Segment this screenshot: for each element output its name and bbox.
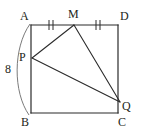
vertex-label-m: M — [68, 8, 79, 20]
side-length-label: 8 — [5, 63, 11, 75]
square-abcd — [31, 25, 118, 113]
arc-brace-side-AB — [17, 24, 30, 115]
vertex-label-p: P — [19, 51, 26, 63]
vertex-label-b: B — [21, 116, 29, 128]
vertex-label-d: D — [120, 10, 129, 22]
vertex-label-a: A — [20, 10, 29, 22]
geometry-figure: A M D P B C Q 8 — [0, 0, 146, 138]
triangle-mpq — [32, 25, 120, 102]
vertex-label-c: C — [118, 116, 126, 128]
vertex-label-q: Q — [122, 100, 131, 112]
